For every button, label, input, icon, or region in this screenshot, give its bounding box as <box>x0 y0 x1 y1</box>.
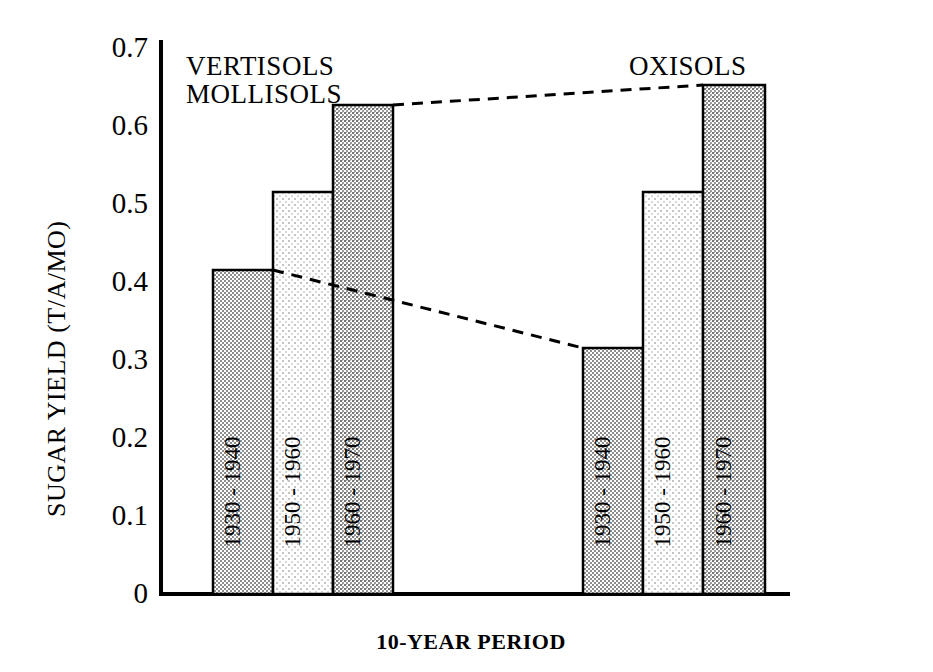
y-tick-label-0: 0 <box>78 579 148 608</box>
y-tick-label-0.3: 0.3 <box>78 345 148 374</box>
bar-label-g2b1: 1930 - 1940 <box>590 407 616 577</box>
y-tick-label-0.2: 0.2 <box>78 423 148 452</box>
trend-connector-upper <box>393 85 703 105</box>
bar-label-g1b2: 1950 - 1960 <box>280 407 306 577</box>
series-label-oxisols: OXISOLS <box>629 52 747 80</box>
y-tick-label-0.6: 0.6 <box>78 111 148 140</box>
chart-canvas <box>0 0 933 672</box>
series-label-vertisols-mollisols: VERTISOLS MOLLISOLS <box>186 52 342 109</box>
bar-label-g2b2: 1950 - 1960 <box>650 407 676 577</box>
y-tick-label-0.1: 0.1 <box>78 501 148 530</box>
series-label-line-vertisols: VERTISOLS <box>186 52 342 80</box>
x-axis-title: 10-YEAR PERIOD <box>291 629 651 655</box>
y-tick-label-0.5: 0.5 <box>78 189 148 218</box>
chart-figure: 0.7 0.6 0.5 0.4 0.3 0.2 0.1 0 SUGAR YIEL… <box>0 0 933 672</box>
bar-label-g1b1: 1930 - 1940 <box>220 407 246 577</box>
y-tick-label-0.4: 0.4 <box>78 267 148 296</box>
bar-label-g1b3: 1960 - 1970 <box>340 407 366 577</box>
y-tick-label-0.7: 0.7 <box>78 33 148 62</box>
y-axis-title: SUGAR YIELD (T/A/MO) <box>42 221 72 517</box>
bar-label-g2b3: 1960 - 1970 <box>711 407 737 577</box>
series-label-line-mollisols: MOLLISOLS <box>186 80 342 108</box>
